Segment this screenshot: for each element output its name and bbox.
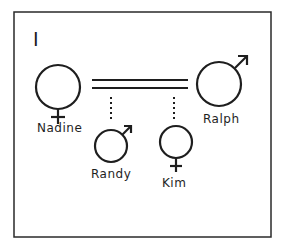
child-line <box>111 97 174 120</box>
panel-label: I <box>33 28 39 50</box>
venus-icon-nadine <box>36 65 80 124</box>
person-label-ralph: Ralph <box>203 112 239 126</box>
person-label-randy: Randy <box>91 167 131 181</box>
marriage-line <box>92 80 188 88</box>
venus-icon-kim <box>160 126 192 172</box>
mars-icon-ralph <box>197 56 247 106</box>
person-label-nadine: Nadine <box>37 121 82 135</box>
person-label-kim: Kim <box>162 176 186 190</box>
mars-icon-randy <box>95 126 131 162</box>
